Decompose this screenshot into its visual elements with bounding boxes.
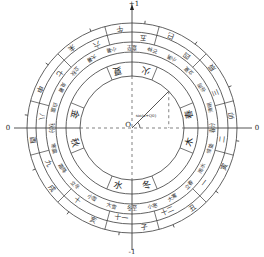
solar-term-label: 冬至 [127,204,137,212]
axis-label-bottom: -1 [129,248,136,256]
solar-term-label: 立秋 [68,65,81,78]
season-divider [152,67,157,80]
solar-term-label: 夏至 [127,45,137,51]
origin-label: O [125,121,131,129]
month-label: 六 [92,39,102,50]
season-label: 冬 [140,178,151,191]
element-label: 金 [69,108,82,119]
axis-label-right: 0 [255,124,259,132]
season-divider [180,148,193,153]
outer-tick [173,225,174,228]
branch-label: 子 [140,223,148,232]
outer-tick [33,169,36,170]
season-divider [107,67,112,80]
axis-label-left: 0 [6,124,10,132]
element-label: 木 [182,136,195,147]
month-label: 十二 [159,204,175,218]
month-label: 二 [218,135,227,143]
season-label: 春 [182,108,195,119]
branch-label: 酉 [28,136,37,144]
solar-term-label: 雨水 [196,161,208,175]
outer-tick [67,212,69,214]
axis-label-top: +1 [129,0,139,8]
season-divider [152,176,157,189]
season-label: 秋 [69,136,82,147]
angle-arc [138,122,140,128]
month-label: 三 [211,88,221,98]
seasonal-cycle-diagram: +1-100Osin(x+Q0)子十一丑十二寅一卯二辰三巳四午五未六申七酉八戌九… [0,0,264,257]
month-label: 八 [37,113,46,121]
season-divider [71,103,84,108]
branch-label: 卯 [226,112,236,120]
season-divider [107,176,112,189]
outer-tick [216,191,218,193]
solar-term-label: 春分 [208,123,216,133]
branch-label: 辰 [207,62,218,72]
outer-tick [229,86,232,87]
outer-tick [46,63,48,65]
outer-tick [195,42,197,44]
season-label: 夏 [112,65,123,77]
solar-term-label: 秋分 [48,123,56,133]
month-label: 九 [43,158,54,168]
season-divider [71,148,84,153]
branch-label: 丑 [187,203,197,214]
month-label: 十一 [113,212,128,223]
season-divider [180,103,193,108]
radius-label: sin(x+Q0) [136,113,157,118]
element-label: 水 [112,178,123,191]
branch-label: 午 [116,24,124,34]
element-label: 火 [141,65,152,77]
month-label: 五 [139,33,147,42]
outer-tick [90,29,91,32]
